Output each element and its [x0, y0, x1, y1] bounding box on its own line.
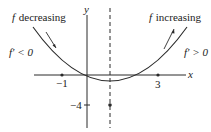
x-tick-label-neg1: −1: [56, 77, 68, 89]
function-graph: y x −1 3 −4 f decreasing f′ < 0 f increa…: [0, 0, 211, 132]
left-title: f decreasing: [12, 11, 66, 23]
right-title-f: f: [149, 11, 154, 23]
right-condition: f′ > 0: [184, 46, 208, 58]
right-title-word: increasing: [156, 11, 202, 23]
root-point-right: [156, 73, 159, 76]
y-tick-label-neg4: −4: [70, 99, 82, 111]
right-title: f increasing: [149, 11, 202, 23]
x-axis-label: x: [187, 68, 193, 80]
increasing-arrow-icon: [164, 29, 175, 49]
vertex-point: [108, 103, 112, 107]
left-title-word: decreasing: [19, 11, 67, 23]
y-axis-label: y: [83, 3, 89, 15]
x-tick-label-3: 3: [155, 78, 161, 90]
left-title-f: f: [12, 11, 17, 23]
left-condition: f′ < 0: [9, 46, 33, 58]
